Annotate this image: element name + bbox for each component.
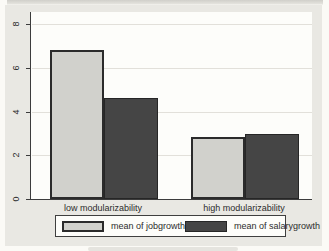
gridline-y-8 [32, 24, 312, 25]
x-category-label-high-modularizability: high modularizability [169, 203, 319, 214]
y-tick-label-4: 4 [10, 105, 22, 119]
x-category-label-low-modularizability: low modularizability [28, 203, 178, 214]
y-tick-4 [26, 112, 30, 113]
legend-label-salarygrowth: mean of salarygrowth [234, 221, 320, 231]
y-tick-8 [26, 24, 30, 25]
bar-mean-of-jobgrowth-low-modularizability [50, 50, 104, 199]
bar-mean-of-salarygrowth-low-modularizability [104, 98, 158, 199]
legend-item-jobgrowth: mean of jobgrowth [62, 221, 185, 232]
y-tick-label-8: 8 [10, 17, 22, 31]
y-tick-label-6: 6 [10, 61, 22, 75]
y-tick-0 [26, 199, 30, 200]
y-tick-6 [26, 68, 30, 69]
y-tick-label-2: 2 [10, 148, 22, 162]
jobgrowth-swatch-icon [62, 221, 104, 232]
plot-region [30, 12, 312, 200]
y-tick-label-0: 0 [10, 192, 22, 206]
scan-edge-bottom [88, 247, 238, 251]
y-tick-2 [26, 155, 30, 156]
legend-label-jobgrowth: mean of jobgrowth [111, 221, 185, 231]
legend-item-salarygrowth: mean of salarygrowth [185, 221, 320, 232]
bar-mean-of-jobgrowth-high-modularizability [191, 137, 245, 199]
legend: mean of jobgrowth mean of salarygrowth [55, 215, 286, 237]
salarygrowth-swatch-icon [185, 221, 227, 232]
bar-mean-of-salarygrowth-high-modularizability [245, 134, 299, 199]
chart-figure: 02468 low modularizabilityhigh modulariz… [5, 5, 322, 246]
